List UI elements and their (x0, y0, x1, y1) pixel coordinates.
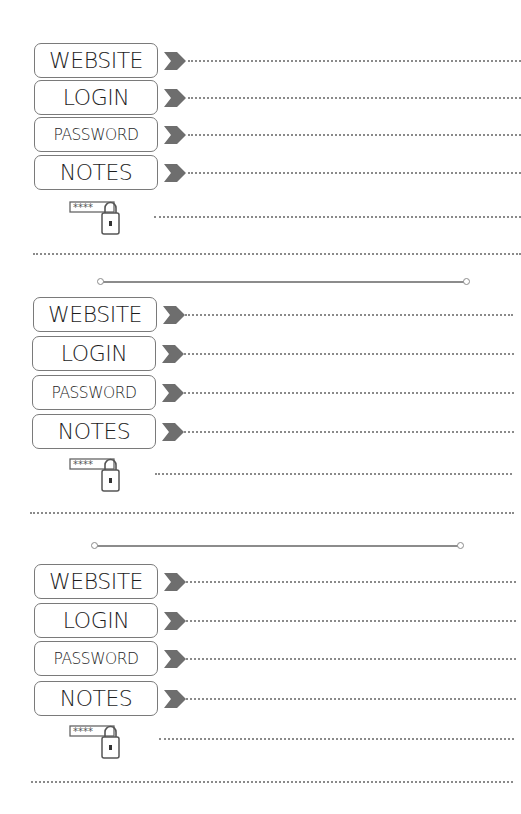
notes-input-line[interactable] (186, 698, 516, 700)
website-label: WEBSITE (34, 43, 158, 78)
chevron-right-icon (164, 690, 186, 708)
login-label: LOGIN (34, 603, 158, 638)
section-divider (100, 281, 467, 283)
website-input-line[interactable] (185, 314, 513, 316)
notes-extra-line-full[interactable] (30, 512, 514, 514)
notes-extra-line[interactable] (154, 216, 521, 218)
field-row-password: PASSWORD (34, 117, 521, 154)
chevron-right-icon (163, 306, 185, 324)
chevron-right-icon (164, 126, 186, 144)
field-row-notes: NOTES (34, 681, 521, 718)
field-row-notes: NOTES (32, 414, 519, 451)
svg-text:****: **** (73, 202, 93, 213)
password-lock-icon: **** (69, 199, 125, 239)
notes-input-line[interactable] (188, 172, 521, 174)
chevron-right-icon (164, 573, 186, 591)
section-divider (94, 545, 461, 547)
notes-label: NOTES (34, 681, 158, 716)
field-row-password: PASSWORD (32, 375, 519, 412)
field-row-website: WEBSITE (34, 43, 521, 80)
password-label: PASSWORD (34, 641, 158, 676)
svg-text:****: **** (73, 726, 93, 737)
chevron-right-icon (162, 345, 184, 363)
field-row-website: WEBSITE (34, 564, 521, 601)
password-input-line[interactable] (188, 134, 521, 136)
login-label: LOGIN (32, 336, 156, 371)
chevron-right-icon (164, 612, 186, 630)
chevron-right-icon (164, 89, 186, 107)
website-label: WEBSITE (33, 297, 157, 332)
notes-extra-line[interactable] (159, 738, 514, 740)
website-label: WEBSITE (34, 564, 158, 599)
chevron-right-icon (164, 650, 186, 668)
field-row-notes: NOTES (34, 155, 521, 192)
notes-label: NOTES (34, 155, 158, 190)
field-row-login: LOGIN (34, 80, 521, 117)
notes-input-line[interactable] (184, 431, 514, 433)
chevron-right-icon (162, 384, 184, 402)
chevron-right-icon (164, 52, 186, 70)
password-label: PASSWORD (32, 375, 156, 410)
notes-extra-line-full[interactable] (31, 781, 513, 783)
notes-extra-line[interactable] (155, 473, 512, 475)
notes-label: NOTES (32, 414, 156, 449)
field-row-login: LOGIN (34, 603, 521, 640)
password-input-line[interactable] (186, 658, 516, 660)
login-label: LOGIN (34, 80, 158, 115)
notes-extra-line-full[interactable] (33, 253, 521, 255)
field-row-password: PASSWORD (34, 641, 521, 678)
svg-text:****: **** (73, 459, 93, 470)
field-row-login: LOGIN (32, 336, 519, 373)
login-input-line[interactable] (184, 353, 514, 355)
website-input-line[interactable] (186, 581, 516, 583)
chevron-right-icon (164, 164, 186, 182)
website-input-line[interactable] (188, 60, 521, 62)
password-lock-icon: **** (69, 723, 125, 763)
login-input-line[interactable] (188, 97, 521, 99)
password-label: PASSWORD (34, 117, 158, 152)
field-row-website: WEBSITE (33, 297, 520, 334)
password-lock-icon: **** (69, 456, 125, 496)
login-input-line[interactable] (186, 620, 516, 622)
chevron-right-icon (162, 423, 184, 441)
password-input-line[interactable] (184, 392, 514, 394)
